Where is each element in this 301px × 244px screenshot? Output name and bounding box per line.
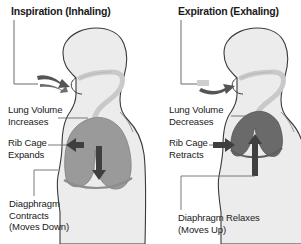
panel-title-inspiration: Inspiration (Inhaling)	[11, 5, 110, 17]
label-rib-cage-expands: Rib Cage Expands	[8, 137, 47, 160]
label-lung-volume-increases: Lung Volume Increases	[8, 104, 62, 127]
air-outflow-arrow-icon	[197, 80, 235, 94]
panel-expiration: Expiration (Exhaling) Lung Volume Decrea…	[151, 0, 301, 244]
label-lung-volume-decreases: Lung Volume Decreases	[169, 104, 223, 127]
label-rib-cage-retracts: Rib Cage Retracts	[169, 137, 208, 160]
respiration-diagram: Inspiration (Inhaling) Lung Volume Incre…	[0, 0, 301, 244]
label-diaphragm-contracts: Diagphragm Contracts (Moves Down)	[9, 198, 69, 233]
title-leader-line-left	[14, 20, 38, 84]
label-diaphragm-relaxes: Diaphragm Relaxes (Moves Up)	[178, 212, 260, 235]
title-leader-line-right	[181, 20, 199, 84]
air-inflow-arrow-icon	[37, 75, 70, 93]
panel-title-expiration: Expiration (Exhaling)	[178, 5, 279, 17]
panel-inspiration: Inspiration (Inhaling) Lung Volume Incre…	[0, 0, 150, 244]
